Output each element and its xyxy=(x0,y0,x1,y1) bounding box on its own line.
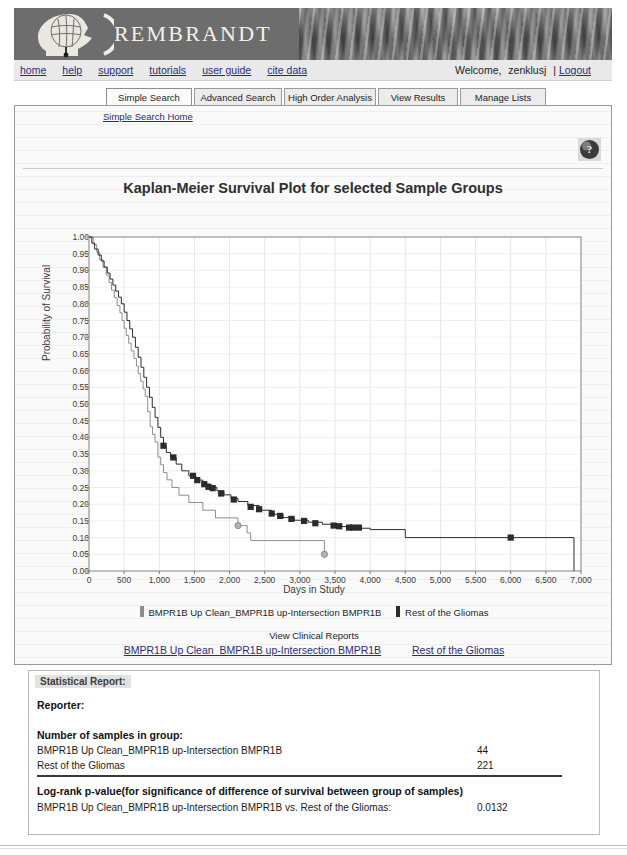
legend-swatch-series2 xyxy=(396,606,400,617)
tab-advanced-search[interactable]: Advanced Search xyxy=(194,88,282,105)
nav-link-tutorials[interactable]: tutorials xyxy=(149,64,186,76)
nav-link-user-guide[interactable]: user guide xyxy=(202,64,251,76)
site-brand-title: REMBRANDT xyxy=(114,21,272,47)
tab-manage-lists[interactable]: Manage Lists xyxy=(460,88,546,105)
pvalue-value: 0.0132 xyxy=(477,802,508,813)
sample-count-1: 44 xyxy=(477,745,488,756)
username-label: zenklusj xyxy=(508,64,546,76)
welcome-area: Welcome, zenklusj | Logout xyxy=(455,64,604,76)
results-panel: Simple Search Home ? Kaplan-Meier Surviv… xyxy=(14,105,612,665)
table-row: BMPR1B Up Clean_BMPR1B up-Intersection B… xyxy=(37,802,591,813)
logout-link[interactable]: Logout xyxy=(559,64,591,76)
reporter-label: Reporter: xyxy=(37,699,84,711)
statistical-report-divider xyxy=(37,775,562,777)
sample-group-label-2: Rest of the Gliomas xyxy=(37,760,125,771)
table-row: BMPR1B Up Clean_BMPR1B up-Intersection B… xyxy=(37,745,591,756)
legend-label-series2: Rest of the Gliomas xyxy=(405,607,488,618)
footer-divider-top xyxy=(0,845,627,846)
sample-group-label-1: BMPR1B Up Clean_BMPR1B up-Intersection B… xyxy=(37,745,282,756)
welcome-label: Welcome, xyxy=(455,64,502,76)
site-masthead: REMBRANDT xyxy=(14,8,612,60)
x-axis-label: Days in Study xyxy=(15,584,613,595)
legend-item-series1: BMPR1B Up Clean_BMPR1B up-Intersection B… xyxy=(140,607,382,618)
masthead-texture xyxy=(299,8,612,60)
welcome-separator: | xyxy=(553,64,556,76)
kaplan-meier-plot: Probability of Survival 0.000.050.100.15… xyxy=(15,106,613,666)
legend-item-series2: Rest of the Gliomas xyxy=(396,607,488,618)
clinical-reports-links: BMPR1B Up Clean_BMPR1B up-Intersection B… xyxy=(15,644,613,656)
nav-link-home[interactable]: home xyxy=(20,64,46,76)
legend-swatch-series1 xyxy=(140,606,144,617)
statistical-report-header: Statistical Report: xyxy=(35,675,131,688)
clinical-reports-heading: View Clinical Reports xyxy=(15,630,613,641)
legend-label-series1: BMPR1B Up Clean_BMPR1B up-Intersection B… xyxy=(149,607,382,618)
tab-high-order-analysis[interactable]: High Order Analysis xyxy=(284,88,376,105)
samples-heading: Number of samples in group: xyxy=(37,729,183,741)
pvalue-heading: Log-rank p-value(for significance of dif… xyxy=(37,785,463,797)
plot-canvas xyxy=(15,106,613,666)
pvalue-comparison-label: BMPR1B Up Clean_BMPR1B up-Intersection B… xyxy=(37,802,391,813)
utility-nav-bar: home help support tutorials user guide c… xyxy=(14,60,612,81)
main-tab-strip: Simple Search Advanced Search High Order… xyxy=(14,88,612,106)
chart-legend: BMPR1B Up Clean_BMPR1B up-Intersection B… xyxy=(15,606,613,618)
statistical-report-box: Statistical Report: Reporter: Number of … xyxy=(28,670,600,835)
head-profile-brain-icon xyxy=(26,11,114,58)
footer-divider-bottom xyxy=(0,848,627,849)
clinical-report-link-group1[interactable]: BMPR1B Up Clean_BMPR1B up-Intersection B… xyxy=(124,644,381,656)
clinical-report-link-group2[interactable]: Rest of the Gliomas xyxy=(412,644,504,656)
nav-link-support[interactable]: support xyxy=(98,64,133,76)
nav-link-help[interactable]: help xyxy=(62,64,82,76)
tab-view-results[interactable]: View Results xyxy=(378,88,458,105)
sample-count-2: 221 xyxy=(477,760,494,771)
tab-simple-search[interactable]: Simple Search xyxy=(106,88,192,105)
table-row: Rest of the Gliomas 221 xyxy=(37,760,591,771)
utility-nav-links: home help support tutorials user guide c… xyxy=(20,64,320,76)
nav-link-cite-data[interactable]: cite data xyxy=(267,64,307,76)
